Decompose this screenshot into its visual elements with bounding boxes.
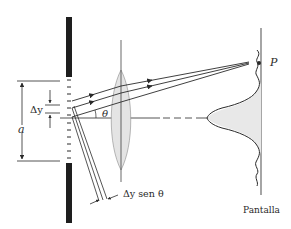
screen-label: Pantalla [243,205,281,215]
delta-y-dimension [45,90,60,128]
slit-width-dimension [17,81,60,161]
theta-arc [95,110,96,118]
barrier-top [66,17,72,77]
point-p-marker [257,61,261,65]
barrier [66,17,72,223]
intensity-pattern [207,50,261,186]
theta-label: θ [102,108,108,119]
path-difference-label: Δy sen θ [123,188,164,199]
slit-dashes [67,80,71,158]
barrier-bottom [66,163,72,223]
light-rays [72,62,249,117]
converging-lens [111,40,131,182]
point-p-label: P [269,56,278,69]
slit-width-label: a [18,123,25,136]
delta-y-label: Δy [30,104,43,115]
diffraction-diagram: a Δy [0,0,291,229]
